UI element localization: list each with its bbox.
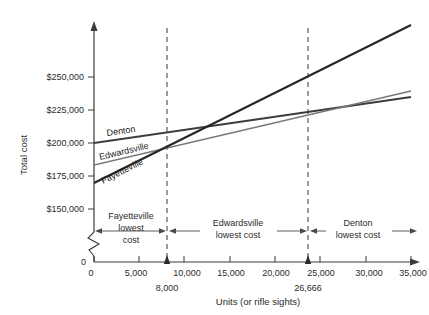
y-tick-label-175000: $175,000 [46, 171, 84, 181]
y-tick-label-200000: $200,000 [46, 138, 84, 148]
series-labels: Denton Edwardsville Fayetteville [98, 124, 149, 186]
region-3-line2: lowest cost [336, 230, 381, 240]
crossover-guides: 8,000 26,666 [156, 28, 322, 293]
y-axis-break-icon [88, 232, 99, 256]
region-2-arrow-right [300, 228, 307, 234]
x-axis: 0 5,000 10,000 15,000 20,000 25,000 30,0… [88, 256, 426, 307]
region-1-arrow-left [95, 228, 102, 234]
chart-svg: $250,000 $225,000 $200,000 $175,000 $150… [0, 0, 429, 315]
region-2-arrow-left [169, 228, 176, 234]
x-tick-label-35000: 35,000 [399, 268, 427, 278]
y-axis-title: Total cost [18, 135, 29, 175]
region-edwardsville-lowest: Edwardsville lowest cost [169, 218, 307, 240]
region-1-line3: cost [123, 235, 140, 245]
region-1-line2: lowest [118, 223, 144, 233]
x-tick-label-30000: 30,000 [355, 268, 383, 278]
x-axis-title: Units (or rifle sights) [216, 296, 300, 307]
y-tick-label-250000: $250,000 [46, 72, 84, 82]
region-2-line1: Edwardsville [213, 218, 264, 228]
region-fayetteville-lowest: Fayetteville lowest cost [95, 211, 166, 245]
x-tick-label-10000: 10,000 [173, 268, 201, 278]
x-tick-label-15000: 15,000 [217, 268, 245, 278]
y-axis-arrowhead [91, 21, 98, 31]
x-tick-label-0: 0 [88, 268, 93, 278]
region-annotations: Fayetteville lowest cost Edwardsville lo… [95, 211, 417, 245]
region-1-line1: Fayetteville [108, 211, 154, 221]
line-edwardsville [94, 91, 411, 165]
x-tick-label-20000: 20,000 [262, 268, 290, 278]
region-1-arrow-right [159, 228, 166, 234]
region-3-line1: Denton [343, 218, 372, 228]
y-axis: $250,000 $225,000 $200,000 $175,000 $150… [18, 21, 99, 267]
crossover-label-8000: 8,000 [156, 283, 179, 293]
x-tick-label-25000: 25,000 [307, 268, 335, 278]
region-2-line2: lowest cost [216, 230, 261, 240]
y-tick-label-150000: $150,000 [46, 204, 84, 214]
crossover-marker-26666 [305, 255, 311, 264]
region-denton-lowest: Denton lowest cost [310, 218, 417, 240]
crossover-label-26666: 26,666 [294, 283, 322, 293]
series-label-denton: Denton [106, 124, 136, 138]
cost-comparison-chart: $250,000 $225,000 $200,000 $175,000 $150… [0, 0, 429, 315]
y-tick-label-225000: $225,000 [46, 105, 84, 115]
region-3-arrow-right [410, 228, 417, 234]
y-axis-zero-label: 0 [81, 257, 86, 267]
series-label-fayetteville: Fayetteville [99, 157, 144, 186]
region-3-arrow-left [310, 228, 317, 234]
crossover-marker-8000 [164, 255, 170, 264]
x-tick-label-5000: 5,000 [125, 268, 148, 278]
